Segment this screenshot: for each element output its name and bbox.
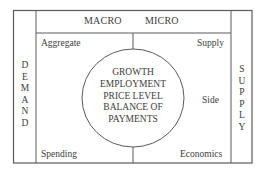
supply-letter: Y <box>231 122 253 134</box>
supply-letter: U <box>231 76 253 88</box>
objective-growth: GROWTH <box>83 67 183 79</box>
objective-payments: PAYMENTS <box>83 114 183 126</box>
demand-letter: N <box>14 106 36 118</box>
objective-price-level: PRICE LEVEL <box>83 91 183 103</box>
supply-vertical-label: S U P P L Y <box>231 64 253 134</box>
economics-label: Economics <box>180 150 222 160</box>
supply-letter: L <box>231 110 253 122</box>
demand-letter: D <box>14 60 36 72</box>
supply-letter: P <box>231 99 253 111</box>
macro-label: MACRO <box>84 16 122 26</box>
demand-letter: A <box>14 95 36 107</box>
micro-label: MICRO <box>145 16 179 26</box>
side-label: Side <box>202 96 219 106</box>
supply-letter: S <box>231 64 253 76</box>
supply-letter: P <box>231 87 253 99</box>
objective-balance-of: BALANCE OF <box>83 102 183 114</box>
supply-label: Supply <box>197 39 224 49</box>
circle-objectives-text: GROWTH EMPLOYMENT PRICE LEVEL BALANCE OF… <box>83 67 183 126</box>
demand-vertical-label: D E M A N D <box>14 60 36 130</box>
demand-letter: E <box>14 72 36 84</box>
aggregate-label: Aggregate <box>41 39 81 49</box>
demand-letter: D <box>14 118 36 130</box>
demand-letter: M <box>14 83 36 95</box>
spending-label: Spending <box>41 150 77 160</box>
objective-employment: EMPLOYMENT <box>83 79 183 91</box>
